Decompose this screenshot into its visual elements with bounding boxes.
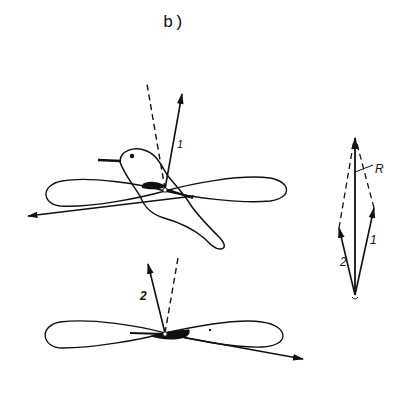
stroke-plane-extension-top (165, 189, 193, 198)
force-label-1-top: 1 (177, 138, 183, 150)
dashed-parallelogram-side-right (356, 140, 374, 208)
dashed-vertical-reference-top (147, 84, 165, 189)
stroke-plane-vector-top (28, 196, 194, 216)
hummingbird-beak (98, 160, 121, 161)
vector-label-2: 2 (340, 255, 347, 269)
body-segment-bottom (130, 333, 165, 334)
dashed-parallelogram-side-left (339, 140, 354, 228)
vector-sum-diagram (339, 138, 374, 299)
resultant-label: R (375, 162, 384, 176)
vector-origin-mark (352, 297, 358, 299)
bottom-scene (45, 258, 303, 359)
wing-pivot-bottom (163, 332, 167, 336)
hummingbird-eye (130, 154, 134, 158)
force-vector-1 (355, 208, 374, 295)
vector-label-1: 1 (370, 233, 377, 247)
wing-pivot-top (163, 188, 167, 192)
dashed-vertical-reference-bottom (165, 258, 178, 333)
force-label-2-bottom: 2 (140, 289, 147, 303)
hummingbird-force-diagram (0, 0, 408, 395)
panel-label: b) (163, 13, 184, 32)
top-scene (28, 84, 287, 249)
force-vector-2-bottom (148, 264, 165, 333)
wing-tip-dot (209, 329, 211, 331)
resultant-label-leader (355, 165, 373, 172)
wing-root-blob (142, 182, 166, 190)
